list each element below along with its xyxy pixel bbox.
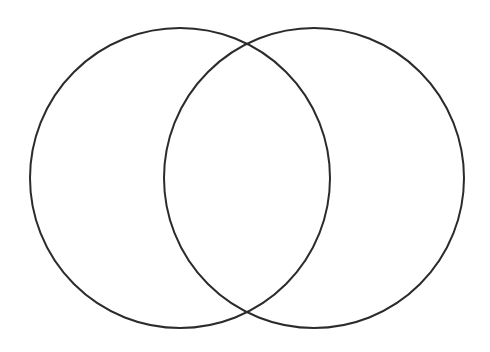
venn-diagram-canvas [0,0,490,352]
diagram-background [0,0,490,352]
venn-diagram-svg [0,0,490,352]
